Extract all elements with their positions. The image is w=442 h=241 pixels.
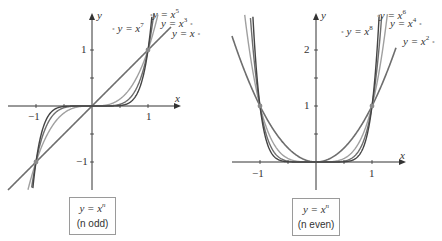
left-x-axis-label: x [175, 93, 180, 104]
left-x-tick-neg1: −1 [28, 111, 40, 122]
legend-label-x7: • y = x7 [112, 22, 144, 34]
right-x-tick-1: 1 [369, 168, 375, 179]
left-y-tick-neg1: −1 [76, 156, 88, 167]
legend-label-x2: y = x2 • [403, 35, 435, 47]
right-y-axis-arrow-icon [313, 13, 319, 20]
caption-box-odd: y = xn (n odd) [69, 197, 116, 235]
caption-formula-even: y = xn [293, 199, 339, 217]
left-curve-x5 [32, 14, 154, 188]
right-curve-x2 [232, 36, 396, 162]
left-y-axis-arrow-icon [89, 13, 95, 20]
right-x-tick-neg1: −1 [252, 168, 264, 179]
legend-label-x4: y = x4 • [390, 17, 422, 29]
right-y-tick-1: 1 [304, 100, 310, 111]
right-intersection-point [258, 104, 263, 109]
caption-note-odd: (n odd) [70, 216, 115, 231]
legend-label-x1: y = x • [172, 28, 200, 39]
right-intersection-point [370, 104, 375, 109]
left-intersection-point [146, 48, 151, 53]
right-x-axis-label: x [400, 150, 405, 161]
left-y-tick-1: 1 [81, 44, 87, 55]
caption-box-even: y = xn (n even) [292, 198, 340, 236]
plots-canvas [0, 0, 442, 241]
left-curve-x3 [28, 14, 158, 189]
right-y-tick-2: 2 [304, 44, 310, 55]
right-y-axis-label: y [321, 10, 326, 21]
legend-label-x8: • y = x8 [341, 25, 373, 37]
caption-formula-odd: y = xn [70, 198, 115, 216]
left-x-tick-1: 1 [146, 111, 152, 122]
left-intersection-point [34, 160, 39, 165]
caption-note-even: (n even) [293, 217, 339, 232]
left-y-axis-label: y [97, 10, 102, 21]
